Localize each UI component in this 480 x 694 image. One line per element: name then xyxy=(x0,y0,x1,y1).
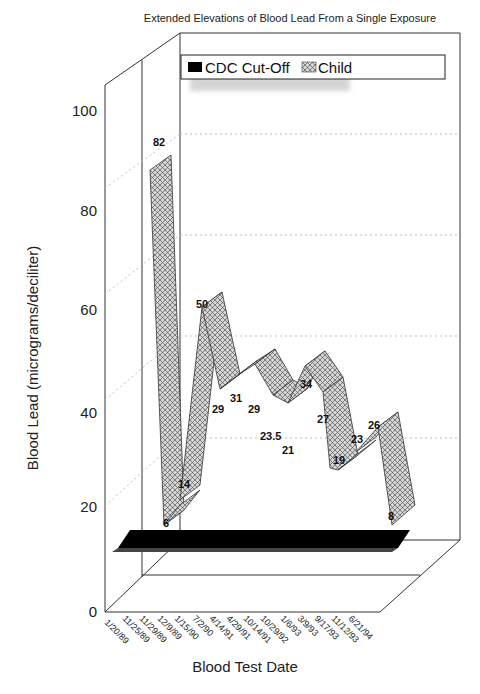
y-tick: 60 xyxy=(80,301,97,318)
data-label: 29 xyxy=(212,403,224,415)
y-tick: 0 xyxy=(89,603,97,620)
data-label: 23.5 xyxy=(260,430,281,442)
legend-swatch-child xyxy=(302,62,316,72)
y-axis-ticks: 0 20 40 60 80 100 xyxy=(72,102,97,620)
y-tick: 40 xyxy=(80,404,97,421)
chart: Extended Elevations of Blood Lead From a… xyxy=(0,0,480,694)
data-label: 27 xyxy=(317,413,329,425)
data-label: 31 xyxy=(230,392,242,404)
y-tick: 100 xyxy=(72,102,97,119)
legend-label-cdc: CDC Cut-Off xyxy=(205,59,291,76)
chart-title: Extended Elevations of Blood Lead From a… xyxy=(144,12,436,24)
legend-label-child: Child xyxy=(318,59,352,76)
y-axis-label: Blood Lead (micrograms/deciliter) xyxy=(24,246,41,470)
data-label: 34 xyxy=(300,378,313,390)
data-label: 14 xyxy=(178,478,191,490)
series-cdc-cutoff xyxy=(112,530,410,552)
data-label: 21 xyxy=(282,444,294,456)
data-label: 19 xyxy=(333,454,345,466)
y-tick: 20 xyxy=(80,498,97,515)
y-tick: 80 xyxy=(80,202,97,219)
x-axis-ticks: 1/20/89 11/25/89 11/29/89 12/9/89 1/15/9… xyxy=(103,613,375,645)
legend: CDC Cut-Off Child xyxy=(181,55,445,91)
x-axis-label: Blood Test Date xyxy=(192,658,298,675)
data-label: 29 xyxy=(248,403,260,415)
data-label: 6 xyxy=(163,517,169,529)
data-label: 23 xyxy=(351,433,363,445)
data-label: 50 xyxy=(196,298,208,310)
data-label: 82 xyxy=(153,136,165,148)
series-child xyxy=(150,155,415,525)
data-label: 8 xyxy=(388,510,394,522)
legend-swatch-cdc xyxy=(188,62,202,72)
data-label: 26 xyxy=(368,419,380,431)
